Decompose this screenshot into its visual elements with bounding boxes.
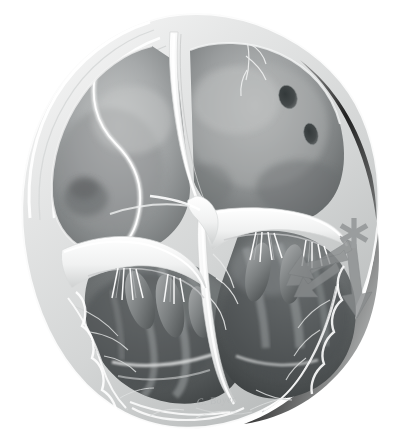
heart-cross-section-illustration <box>0 0 399 438</box>
illustration-canvas: C. Boyer <box>0 0 399 438</box>
